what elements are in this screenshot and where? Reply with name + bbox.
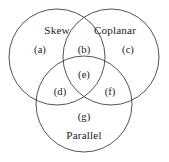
region-label-c: (c) xyxy=(122,44,134,56)
set-label-parallel: Parallel xyxy=(66,129,101,141)
region-label-f: (f) xyxy=(105,86,116,98)
set-label-coplanar: Coplanar xyxy=(94,24,136,36)
region-label-e: (e) xyxy=(78,69,90,81)
set-label-skew: Skew xyxy=(44,24,70,36)
region-label-b: (b) xyxy=(78,44,91,56)
venn-diagram-canvas: Skew Coplanar Parallel (a) (b) (c) (d) (… xyxy=(0,0,169,162)
region-label-a: (a) xyxy=(34,44,46,56)
region-label-d: (d) xyxy=(54,86,67,98)
region-label-g: (g) xyxy=(78,111,91,123)
venn-diagram: Skew Coplanar Parallel (a) (b) (c) (d) (… xyxy=(0,0,169,162)
